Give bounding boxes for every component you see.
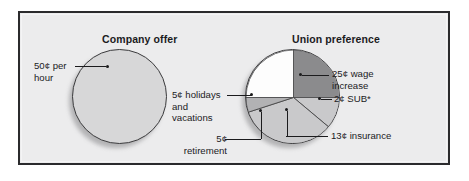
insurance-leader-vertical — [287, 111, 288, 136]
wage-increase-leader-line — [302, 75, 329, 76]
wage-increase-label: 25¢ wage increase — [332, 68, 402, 91]
retirement-leader-line — [225, 139, 261, 140]
holidays-leader-line — [227, 95, 252, 96]
company-leader-line — [75, 66, 106, 67]
union-pie — [245, 49, 340, 144]
company-leader-dot — [106, 65, 109, 68]
sub-leader-line — [321, 99, 332, 100]
company-offer-title: Company offer — [102, 33, 177, 45]
chart-frame: Company offer 50¢ per hour Union prefere… — [18, 11, 450, 165]
sub-label: 2¢ SUB* — [334, 93, 404, 105]
holidays-vacations-label: 5¢ holidays and vacations — [172, 89, 228, 124]
union-preference-title: Union preference — [292, 33, 380, 45]
retirement-leader-vertical — [261, 112, 262, 139]
slice-holidays-vacations — [246, 50, 294, 98]
figure-container: Company offer 50¢ per hour Union prefere… — [0, 0, 469, 181]
insurance-label: 13¢ insurance — [331, 130, 411, 142]
company-offer-label: 50¢ per hour — [34, 60, 94, 83]
retirement-label: 5¢ retirement — [175, 133, 227, 156]
insurance-leader-line — [286, 136, 328, 137]
